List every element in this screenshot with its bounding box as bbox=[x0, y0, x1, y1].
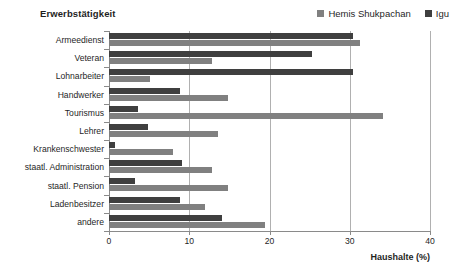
y-tick-mark bbox=[104, 31, 109, 32]
y-tick-mark bbox=[104, 195, 109, 196]
category-label: Krankenschwester bbox=[0, 144, 104, 154]
x-tick-label: 20 bbox=[265, 236, 275, 246]
chart-title: Erwerbstätigkeit bbox=[40, 8, 116, 19]
x-tick-label: 10 bbox=[184, 236, 194, 246]
y-tick-mark bbox=[104, 158, 109, 159]
legend-label-igu: Igu bbox=[436, 8, 449, 19]
category-label: andere bbox=[0, 217, 104, 227]
x-tick-mark bbox=[270, 231, 271, 235]
y-tick-mark bbox=[104, 140, 109, 141]
legend-item-igu[interactable]: Igu bbox=[425, 8, 449, 19]
category-label: Veteran bbox=[0, 53, 104, 63]
category-label: Tourismus bbox=[0, 108, 104, 118]
category-label: Ladenbesitzer bbox=[0, 199, 104, 209]
category-label: staatl. Administration bbox=[0, 162, 104, 172]
legend-label-hemis-shukpachan: Hemis Shukpachan bbox=[328, 8, 410, 19]
x-axis-title: Haushalte (%) bbox=[370, 252, 430, 262]
y-tick-mark bbox=[104, 122, 109, 123]
x-tick-label: 30 bbox=[345, 236, 355, 246]
category-label: staatl. Pension bbox=[0, 181, 104, 191]
x-tick-mark bbox=[430, 231, 431, 235]
x-tick-label: 0 bbox=[107, 236, 112, 246]
category-label: Armeedienst bbox=[0, 35, 104, 45]
category-label: Handwerker bbox=[0, 90, 104, 100]
x-tick-mark bbox=[189, 231, 190, 235]
y-tick-mark bbox=[104, 49, 109, 50]
x-axis-ticks: 010203040 bbox=[0, 231, 457, 251]
legend-item-hemis-shukpachan[interactable]: Hemis Shukpachan bbox=[317, 8, 410, 19]
y-tick-mark bbox=[104, 104, 109, 105]
category-label: Lehrer bbox=[0, 126, 104, 136]
legend-swatch-hemis-shukpachan bbox=[317, 10, 324, 17]
x-tick-label: 40 bbox=[425, 236, 435, 246]
y-tick-mark bbox=[104, 176, 109, 177]
category-label: Lohnarbeiter bbox=[0, 71, 104, 81]
x-tick-mark bbox=[350, 231, 351, 235]
chart-container: Erwerbstätigkeit Hemis Shukpachan Igu Ar… bbox=[0, 0, 457, 273]
y-axis-category-labels: ArmeedienstVeteranLohnarbeiterHandwerker… bbox=[0, 31, 457, 231]
x-tick-mark bbox=[109, 231, 110, 235]
y-tick-mark bbox=[104, 213, 109, 214]
legend-swatch-igu bbox=[425, 10, 432, 17]
y-tick-mark bbox=[104, 67, 109, 68]
chart-legend: Hemis Shukpachan Igu bbox=[317, 8, 449, 19]
y-tick-mark bbox=[104, 86, 109, 87]
